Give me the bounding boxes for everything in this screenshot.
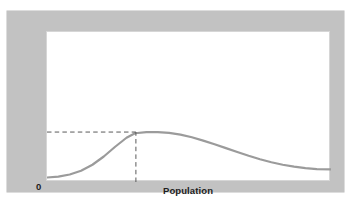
plot-area [46,31,330,181]
plot-svg [47,32,331,182]
origin-tick-label: 0 [36,181,41,192]
figure-canvas: Average standard of living Population 0 [0,0,351,201]
x-axis-label: Population [46,185,330,196]
standard-of-living-curve [47,132,331,177]
chart-panel: Average standard of living Population 0 [7,11,344,192]
